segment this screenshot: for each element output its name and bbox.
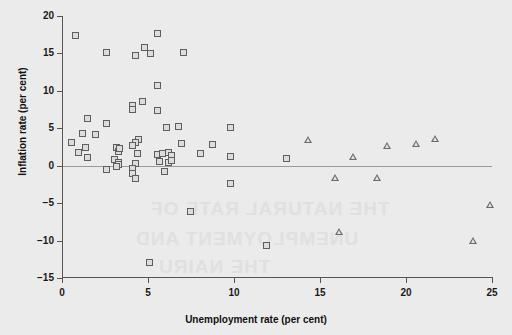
x-tick-label: 25	[472, 287, 512, 298]
data-point-square	[68, 139, 75, 146]
data-point-triangle	[486, 201, 494, 208]
x-tick	[406, 277, 407, 283]
data-point-square	[197, 150, 204, 157]
data-point-square	[263, 242, 270, 249]
data-point-triangle	[335, 228, 343, 235]
data-point-triangle	[469, 237, 477, 244]
data-point-square	[227, 124, 234, 131]
x-tick	[320, 277, 321, 283]
data-point-square	[154, 82, 161, 89]
data-point-square	[132, 175, 139, 182]
y-tick-label: 0	[14, 160, 54, 171]
data-point-square	[134, 150, 141, 157]
x-tick-label: 5	[128, 287, 168, 298]
y-tick	[57, 203, 63, 204]
data-point-square	[103, 120, 110, 127]
x-axis-line	[62, 277, 492, 278]
x-tick-label: 10	[214, 287, 254, 298]
data-point-square	[92, 131, 99, 138]
x-tick	[62, 277, 63, 283]
data-point-square	[84, 154, 91, 161]
data-point-square	[227, 180, 234, 187]
data-point-triangle	[331, 174, 339, 181]
y-tick	[57, 128, 63, 129]
data-point-square	[129, 142, 136, 149]
data-point-square	[168, 157, 175, 164]
y-tick-label: −5	[14, 197, 54, 208]
y-tick-label: 20	[14, 10, 54, 21]
y-axis-line	[62, 16, 63, 278]
y-tick	[57, 16, 63, 17]
data-point-square	[178, 140, 185, 147]
data-point-square	[116, 145, 123, 152]
data-point-square	[103, 49, 110, 56]
data-point-triangle	[349, 153, 357, 160]
data-point-square	[209, 141, 216, 148]
data-point-square	[139, 98, 146, 105]
data-point-square	[187, 208, 194, 215]
data-point-square	[154, 30, 161, 37]
data-point-square	[180, 49, 187, 56]
plot-area: −15−10−505101520 0510152025	[62, 16, 492, 278]
data-point-square	[154, 107, 161, 114]
data-point-square	[156, 158, 163, 165]
x-tick-label: 15	[300, 287, 340, 298]
data-point-square	[161, 168, 168, 175]
data-point-square	[163, 124, 170, 131]
data-point-square	[84, 115, 91, 122]
x-tick	[234, 277, 235, 283]
y-tick	[57, 53, 63, 54]
data-point-triangle	[383, 142, 391, 149]
data-point-square	[175, 123, 182, 130]
data-point-square	[283, 155, 290, 162]
data-point-square	[146, 259, 153, 266]
y-tick-label: 15	[14, 47, 54, 58]
data-point-triangle	[373, 174, 381, 181]
data-point-square	[129, 106, 136, 113]
data-point-triangle	[304, 136, 312, 143]
data-point-square	[227, 153, 234, 160]
data-point-square	[82, 144, 89, 151]
x-axis-title: Unemployment rate (per cent)	[0, 314, 512, 325]
data-point-square	[103, 166, 110, 173]
data-point-square	[79, 130, 86, 137]
zero-reference-line	[62, 166, 492, 167]
data-point-square	[132, 52, 139, 59]
y-tick-label: 5	[14, 122, 54, 133]
data-point-triangle	[431, 135, 439, 142]
data-point-square	[72, 32, 79, 39]
y-tick	[57, 91, 63, 92]
y-tick-label: −10	[14, 235, 54, 246]
y-tick-label: −15	[14, 272, 54, 283]
x-tick	[492, 277, 493, 283]
x-tick	[148, 277, 149, 283]
x-tick-label: 20	[386, 287, 426, 298]
x-tick-label: 0	[42, 287, 82, 298]
scatter-chart-figure: THE NATURAL RATE OF UNEMPLOYMENT AND THE…	[0, 0, 512, 335]
data-point-triangle	[412, 140, 420, 147]
y-tick-label: 10	[14, 85, 54, 96]
y-tick	[57, 166, 63, 167]
data-point-square	[147, 50, 154, 57]
data-point-square	[113, 163, 120, 170]
y-tick	[57, 241, 63, 242]
